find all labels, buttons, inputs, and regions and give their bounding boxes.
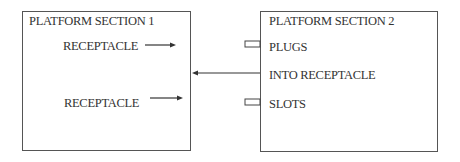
slots-label: SLOTS xyxy=(269,98,306,111)
plugs-label: PLUGS xyxy=(269,41,307,54)
plugs-tab-icon xyxy=(245,41,260,47)
into-receptacle-label: INTO RECEPTACLE xyxy=(269,69,375,82)
slots-tab-icon xyxy=(245,99,260,105)
platform-section-1-title: PLATFORM SECTION 1 xyxy=(29,15,154,28)
platform-section-1-box xyxy=(22,11,191,151)
receptacle-label-1: RECEPTACLE xyxy=(63,40,138,53)
into-receptacle-arrow xyxy=(192,71,260,76)
receptacle-label-2: RECEPTACLE xyxy=(64,97,139,110)
platform-section-2-title: PLATFORM SECTION 2 xyxy=(269,15,394,28)
